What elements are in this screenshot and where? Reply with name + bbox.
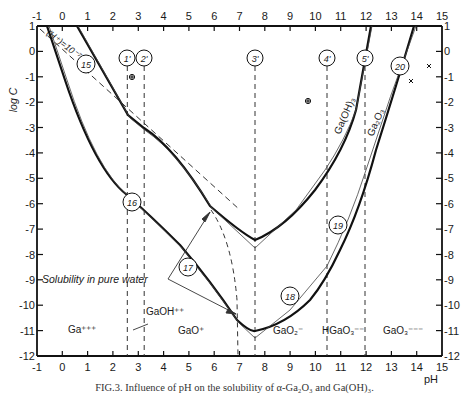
svg-text:-6: -6 <box>25 198 35 210</box>
svg-text:Ga⁺⁺⁺: Ga⁺⁺⁺ <box>68 324 96 335</box>
plot-frame <box>37 26 442 356</box>
svg-text:10: 10 <box>309 361 321 373</box>
svg-text:4: 4 <box>161 10 167 22</box>
svg-text:18: 18 <box>285 292 295 302</box>
svg-text:-5: -5 <box>444 172 454 184</box>
svg-text:20: 20 <box>394 62 405 72</box>
svg-text:-7: -7 <box>25 223 35 235</box>
svg-text:2: 2 <box>110 361 116 373</box>
svg-text:3: 3 <box>135 361 141 373</box>
h-plus-label: (H⁺)=10⁻⁷ <box>45 28 84 62</box>
svg-text:11: 11 <box>335 10 346 22</box>
svg-text:-8: -8 <box>25 249 35 261</box>
svg-text:-2: -2 <box>444 96 454 108</box>
svg-text:-5: -5 <box>25 172 35 184</box>
species-labels: Ga⁺⁺⁺ GaOH⁺⁺ GaO⁺ GaO₂⁻ HGaO₃⁻⁻ GaO₃⁻⁻⁻ <box>68 306 423 336</box>
svg-text:GaO⁺: GaO⁺ <box>178 325 204 336</box>
svg-text:12: 12 <box>360 361 372 373</box>
svg-text:-6: -6 <box>444 198 454 210</box>
svg-text:12: 12 <box>360 10 372 22</box>
svg-text:-3: -3 <box>444 122 454 134</box>
svg-text:-10: -10 <box>444 299 460 311</box>
svg-text:-4: -4 <box>444 147 454 159</box>
svg-text:-9: -9 <box>444 274 454 286</box>
svg-text:15: 15 <box>81 60 92 70</box>
svg-text:-10: -10 <box>19 299 35 311</box>
svg-text:-8: -8 <box>444 249 454 261</box>
svg-text:1: 1 <box>444 20 450 32</box>
svg-text:4': 4' <box>324 54 331 64</box>
svg-text:1: 1 <box>85 10 91 22</box>
svg-text:GaO₃⁻⁻⁻: GaO₃⁻⁻⁻ <box>383 325 423 336</box>
svg-text:-1: -1 <box>25 71 35 83</box>
svg-text:16: 16 <box>127 198 137 208</box>
svg-text:5': 5' <box>362 54 369 64</box>
svg-text:3': 3' <box>252 54 259 64</box>
svg-text:2: 2 <box>110 10 116 22</box>
svg-text:GaOH⁺⁺: GaOH⁺⁺ <box>146 306 184 317</box>
svg-text:-1: -1 <box>444 71 454 83</box>
svg-text:0: 0 <box>59 10 65 22</box>
svg-text:6: 6 <box>211 361 217 373</box>
svg-text:13: 13 <box>385 361 397 373</box>
svg-text:15: 15 <box>436 361 448 373</box>
svg-text:9: 9 <box>287 361 293 373</box>
pure-water-label: Solubility in pure water <box>42 273 148 285</box>
svg-text:7: 7 <box>236 10 242 22</box>
svg-text:9: 9 <box>287 10 293 22</box>
y-tick-labels-left: 1 0 -1 -2 -3 -4 -5 -6 -7 -8 -9 -10 -11 -… <box>19 20 35 362</box>
svg-text:1': 1' <box>124 54 131 64</box>
x-tick-labels-bottom: -1 0 1 2 3 4 5 6 7 8 9 10 11 12 13 14 15 <box>32 361 448 373</box>
circled-label-text: 1' 2' 3' 4' 5' 15 20 16 17 18 19 <box>81 54 405 302</box>
svg-text:5: 5 <box>186 361 192 373</box>
svg-text:0: 0 <box>444 45 450 57</box>
svg-text:-12: -12 <box>444 350 460 362</box>
svg-text:GaO₂⁻: GaO₂⁻ <box>273 325 303 336</box>
svg-text:8: 8 <box>262 10 268 22</box>
svg-text:-7: -7 <box>444 223 454 235</box>
svg-text:5: 5 <box>186 10 192 22</box>
svg-text:10: 10 <box>309 10 321 22</box>
tick-marks <box>37 26 442 356</box>
y-tick-labels-right: 1 0 -1 -2 -3 -4 -5 -6 -7 -8 -9 -10 -11 -… <box>444 20 460 362</box>
svg-text:3: 3 <box>135 10 141 22</box>
ga2o3-label: Ga₂O₃ <box>365 107 386 138</box>
svg-text:17: 17 <box>183 263 194 273</box>
svg-text:-4: -4 <box>25 147 35 159</box>
svg-text:-11: -11 <box>20 325 35 337</box>
svg-text:4: 4 <box>161 361 167 373</box>
svg-text:-2: -2 <box>25 96 35 108</box>
svg-text:-1: -1 <box>32 361 42 373</box>
svg-text:-3: -3 <box>25 122 35 134</box>
figure-caption: FIG.3. Influence of pH on the solubility… <box>0 382 469 393</box>
svg-text:14: 14 <box>411 361 423 373</box>
svg-text:0: 0 <box>59 361 65 373</box>
y-axis-label: log C <box>7 87 19 112</box>
svg-text:HGaO₃⁻⁻: HGaO₃⁻⁻ <box>322 325 364 336</box>
x-tick-labels-top: -1 0 1 2 3 4 5 6 7 8 9 10 11 12 13 14 15 <box>32 10 448 22</box>
svg-text:1: 1 <box>85 361 91 373</box>
svg-text:-12: -12 <box>19 350 35 362</box>
svg-text:2': 2' <box>140 54 148 64</box>
svg-text:-9: -9 <box>25 274 35 286</box>
svg-text:6: 6 <box>211 10 217 22</box>
data-markers <box>129 64 431 104</box>
svg-text:19: 19 <box>333 221 343 231</box>
svg-text:13: 13 <box>385 10 397 22</box>
svg-text:-11: -11 <box>444 325 459 337</box>
svg-text:8: 8 <box>262 361 268 373</box>
svg-text:14: 14 <box>411 10 423 22</box>
svg-text:0: 0 <box>29 45 35 57</box>
svg-text:7: 7 <box>236 361 242 373</box>
solubility-chart: -1 0 1 2 3 4 5 6 7 8 9 10 11 12 13 14 15… <box>0 0 469 398</box>
svg-text:11: 11 <box>335 361 346 373</box>
svg-text:1: 1 <box>29 20 35 32</box>
dashed-boundary-curve <box>211 210 238 356</box>
